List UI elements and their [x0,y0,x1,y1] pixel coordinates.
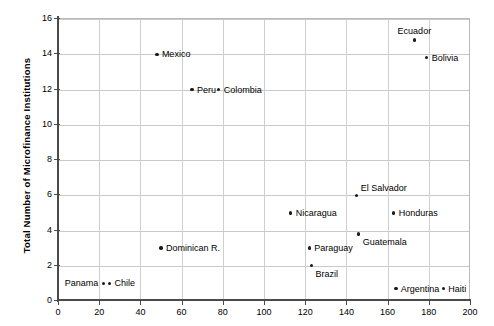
y-tick-mark [54,124,60,125]
x-tick-label: 180 [409,307,449,317]
scatter-chart: Total Number of Microfinance Institution… [0,0,494,326]
x-tick-label: 200 [450,307,490,317]
x-tick-label: 80 [203,307,243,317]
data-point [357,232,360,235]
data-point-label: Nicaragua [296,208,337,218]
plot-area: EcuadorBoliviaMexicoPeruColombiaEl Salva… [58,18,470,300]
data-point-label: Guatemala [363,237,407,247]
y-tick-mark [54,53,60,54]
y-tick-mark [54,89,60,90]
data-point-label: Panama [65,278,99,288]
data-point [289,211,292,214]
x-tick-mark [305,300,306,305]
gridline-vertical [99,19,100,300]
y-tick-mark [54,194,60,195]
gridline-vertical [388,19,389,300]
data-point-label: Bolivia [432,53,459,63]
y-tick-label: 12 [12,84,52,94]
y-tick-label: 14 [12,48,52,58]
x-tick-mark [429,300,430,305]
y-tick-label: 2 [12,260,52,270]
x-tick-mark [346,300,347,305]
y-tick-mark [54,18,60,19]
gridline-vertical [264,19,265,300]
data-point-label: Argentina [401,284,440,294]
data-point-label: El Salvador [361,183,407,193]
data-point [217,88,220,91]
gridline-vertical [140,19,141,300]
data-point-label: Haiti [448,284,466,294]
x-tick-label: 160 [368,307,408,317]
data-point-label: Dominican R. [166,243,220,253]
x-tick-label: 60 [162,307,202,317]
x-tick-label: 120 [285,307,325,317]
x-tick-mark [58,300,59,305]
y-tick-mark [54,230,60,231]
x-tick-mark [388,300,389,305]
data-point-label: Brazil [315,269,338,279]
y-tick-mark [54,300,60,301]
gridline-vertical [182,19,183,300]
gridline-vertical [223,19,224,300]
gridline-vertical [429,19,430,300]
x-tick-label: 20 [79,307,119,317]
y-tick-label: 6 [12,189,52,199]
x-tick-mark [140,300,141,305]
x-tick-mark [99,300,100,305]
y-tick-label: 16 [12,13,52,23]
data-point-label: Mexico [162,49,191,59]
data-point [355,194,358,197]
data-point-label: Ecuador [398,26,432,36]
data-point [394,287,397,290]
y-tick-label: 0 [12,295,52,305]
data-point [413,38,416,41]
x-tick-label: 100 [244,307,284,317]
x-tick-label: 0 [38,307,78,317]
y-tick-label: 10 [12,119,52,129]
data-point-label: Paraguay [314,243,353,253]
x-tick-label: 140 [326,307,366,317]
y-tick-mark [54,159,60,160]
data-point [155,53,158,56]
data-point [392,211,395,214]
data-point [308,246,311,249]
gridline-vertical [346,19,347,300]
data-point [108,282,111,285]
data-point-label: Chile [115,278,136,288]
y-tick-label: 4 [12,225,52,235]
data-point-label: Colombia [224,85,262,95]
x-tick-mark [223,300,224,305]
x-tick-label: 40 [120,307,160,317]
x-tick-mark [470,300,471,305]
data-point [159,246,162,249]
y-tick-label: 8 [12,154,52,164]
data-point-label: Peru [197,85,216,95]
data-point [310,264,313,267]
data-point [190,88,193,91]
y-tick-mark [54,265,60,266]
data-point [442,287,445,290]
gridline-vertical [305,19,306,300]
data-point-label: Honduras [399,208,438,218]
data-point [102,282,105,285]
x-tick-mark [264,300,265,305]
x-tick-mark [182,300,183,305]
